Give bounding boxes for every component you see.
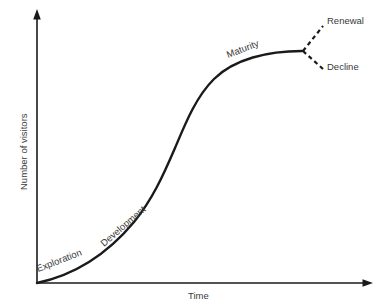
stage-label-decline: Decline bbox=[327, 61, 359, 72]
y-axis-title: Number of visitors bbox=[18, 113, 29, 190]
x-axis bbox=[37, 279, 373, 287]
renewal-branch-line bbox=[303, 26, 323, 51]
stage-label-renewal: Renewal bbox=[327, 15, 364, 26]
y-axis bbox=[33, 9, 41, 283]
x-axis-arrow-icon bbox=[363, 279, 374, 287]
x-axis-title: Time bbox=[188, 290, 209, 301]
decline-branch-line bbox=[303, 51, 323, 69]
y-axis-arrow-icon bbox=[33, 9, 41, 20]
stage-label-development: Development bbox=[98, 203, 148, 248]
tourism-life-cycle-chart: Exploration Development Maturity Renewal… bbox=[0, 0, 391, 307]
chart-canvas: Exploration Development Maturity Renewal… bbox=[0, 0, 391, 307]
